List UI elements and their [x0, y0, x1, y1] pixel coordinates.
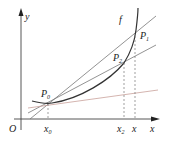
tick-x2-label: x2 — [116, 123, 124, 135]
point-p1-label: P1 — [139, 30, 149, 42]
origin-label: O — [9, 123, 16, 134]
curve-f — [32, 8, 138, 103]
point-p0-label: P0 — [40, 88, 50, 100]
y-axis-arrow-icon — [19, 8, 24, 16]
x-axis-arrow-icon — [151, 117, 160, 122]
tick-x0-label: x0 — [43, 123, 51, 135]
x-axis-label: x — [149, 123, 155, 134]
point-p2-label: P2 — [112, 52, 122, 64]
tick-x-label: x — [131, 123, 137, 134]
curve-label: f — [119, 14, 123, 25]
derivative-diagram: y O x f P0 P2 P1 x0 x2 x — [0, 0, 172, 141]
y-axis-label: y — [24, 11, 30, 22]
